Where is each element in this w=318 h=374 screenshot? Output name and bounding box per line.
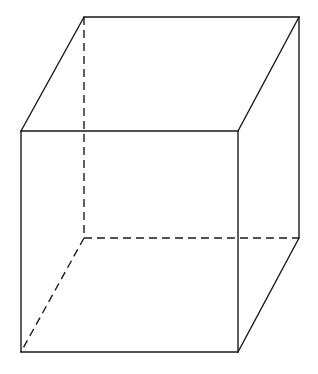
- hidden-edges: [21, 17, 299, 352]
- visible-edges: [21, 17, 299, 352]
- edge-back-top-right-to-front-top-right: [238, 17, 299, 131]
- hidden-edge-back-bottom-left-to-front-bottom-left: [21, 238, 84, 352]
- edge-back-bottom-right-to-front-bottom-right: [238, 238, 299, 352]
- cube-diagram: [0, 0, 318, 374]
- edge-front-top-left-to-back-top-left: [21, 17, 84, 131]
